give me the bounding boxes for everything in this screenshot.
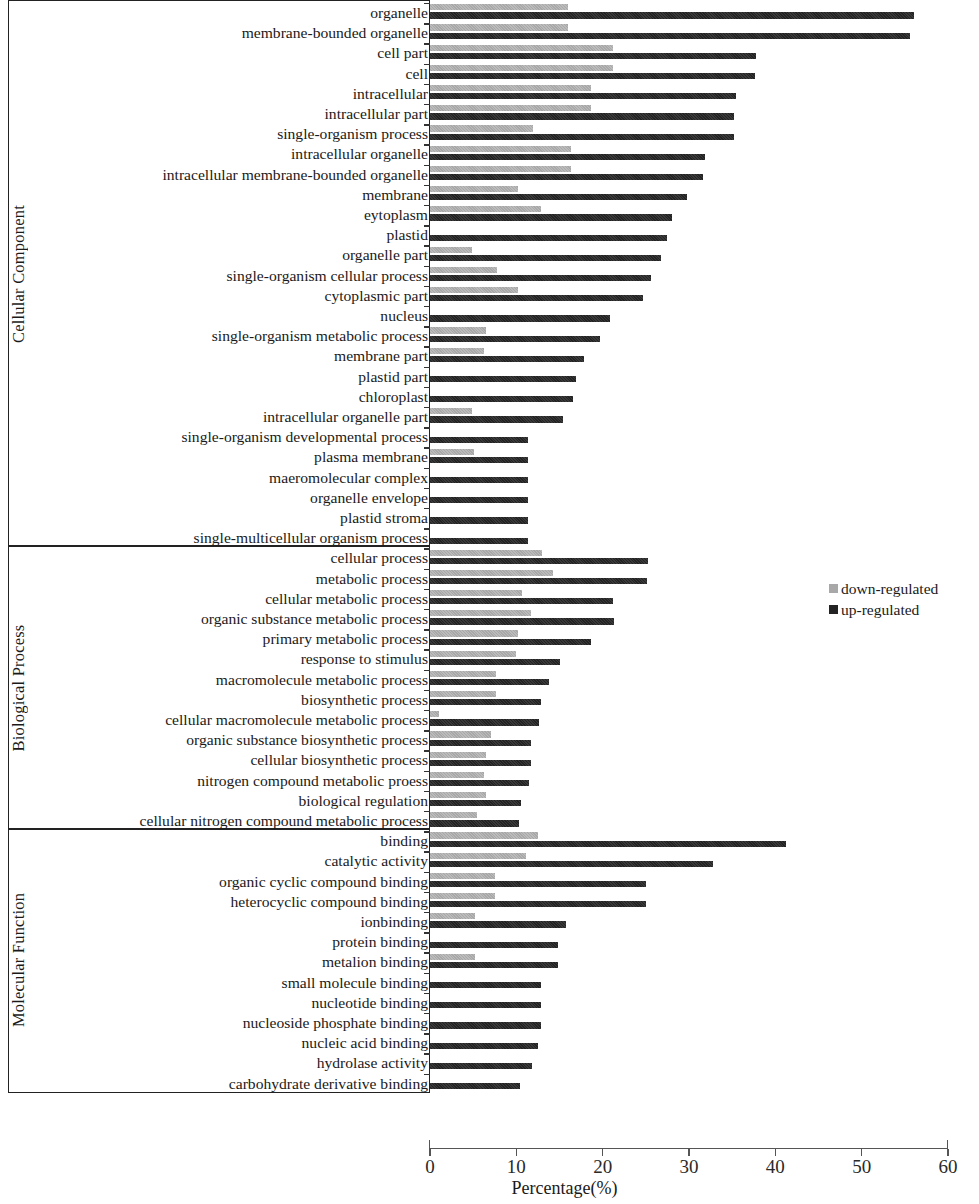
y-axis-tick — [424, 993, 430, 994]
y-axis-tick — [424, 306, 430, 307]
category-label: single-organism metabolic process — [212, 328, 428, 344]
chart-row: ionbinding — [0, 912, 979, 932]
x-tick — [861, 1149, 862, 1156]
chart-row: catalytic activity — [0, 851, 979, 871]
bar-down-regulated — [430, 792, 486, 798]
legend-item-up-regulated: up-regulated — [829, 599, 938, 620]
bar-up-regulated — [430, 780, 529, 786]
category-label: plasma membrane — [314, 450, 428, 466]
bar-down-regulated — [430, 45, 613, 51]
category-label: intracellular organelle — [291, 147, 428, 163]
bar-up-regulated — [430, 134, 734, 140]
chart-row: organelle — [0, 3, 979, 23]
chart-row: organic cyclic compound binding — [0, 872, 979, 892]
bar-down-regulated — [430, 731, 491, 737]
bar-up-regulated — [430, 376, 576, 382]
chart-row: biological regulation — [0, 791, 979, 811]
category-label: organic cyclic compound binding — [219, 874, 428, 890]
chart-row: chloroplast — [0, 387, 979, 407]
bar-up-regulated — [430, 820, 519, 826]
bar-up-regulated — [430, 942, 558, 948]
category-label: single-organism developmental process — [181, 429, 428, 445]
category-label: binding — [380, 833, 428, 849]
category-label: maeromolecular complex — [269, 470, 428, 486]
x-tick-label: 20 — [593, 1156, 612, 1178]
category-label: cellular macromolecule metabolic process — [165, 712, 428, 728]
chart-row: membrane part — [0, 346, 979, 366]
chart-row: organelle part — [0, 245, 979, 265]
bar-up-regulated — [430, 1063, 532, 1069]
bar-down-regulated — [430, 691, 496, 697]
category-label: nucleotide binding — [312, 995, 429, 1011]
x-tick-label: 0 — [425, 1156, 435, 1178]
bar-down-regulated — [430, 772, 484, 778]
category-label: cellular process — [331, 551, 428, 567]
bar-up-regulated — [430, 53, 756, 59]
chart-row: eytoplasm — [0, 205, 979, 225]
bar-up-regulated — [430, 457, 528, 463]
x-tick-label: 30 — [680, 1156, 699, 1178]
chart-row: membrane-bounded organelle — [0, 23, 979, 43]
chart-row: cellular nitrogen compound metabolic pro… — [0, 811, 979, 831]
bar-up-regulated — [430, 760, 531, 766]
bar-down-regulated — [430, 247, 472, 253]
bar-up-regulated — [430, 517, 528, 523]
bar-down-regulated — [430, 24, 568, 30]
x-tick — [947, 1149, 948, 1156]
bar-up-regulated — [430, 33, 910, 39]
legend-swatch-up-icon — [829, 605, 838, 614]
bar-up-regulated — [430, 982, 541, 988]
bar-up-regulated — [430, 598, 613, 604]
chart-row: heterocyclic compound binding — [0, 892, 979, 912]
bar-down-regulated — [430, 812, 477, 818]
legend-swatch-down-icon — [829, 584, 838, 593]
bar-down-regulated — [430, 853, 526, 859]
bar-up-regulated — [430, 901, 646, 907]
chart-row: intracellular organelle — [0, 144, 979, 164]
bar-up-regulated — [430, 740, 531, 746]
bar-up-regulated — [430, 538, 528, 544]
x-tick — [775, 1149, 776, 1156]
chart-row: carbohydrate derivative binding — [0, 1074, 979, 1094]
bar-down-regulated — [430, 954, 475, 960]
category-label: small molecule binding — [282, 975, 428, 991]
category-label: biosynthetic process — [301, 692, 428, 708]
bar-up-regulated — [430, 558, 648, 564]
chart-row: single-multicellular organism process — [0, 528, 979, 548]
category-label: organic substance biosynthetic process — [186, 732, 428, 748]
category-label: eytoplasm — [364, 207, 428, 223]
bar-up-regulated — [430, 618, 614, 624]
x-tick — [429, 1149, 430, 1156]
chart-row: protein binding — [0, 932, 979, 952]
bar-down-regulated — [430, 651, 516, 657]
chart-row: biosynthetic process — [0, 690, 979, 710]
legend: down-regulated up-regulated — [829, 578, 938, 620]
category-label: chloroplast — [359, 389, 428, 405]
x-axis-title: Percentage(%) — [0, 1178, 979, 1199]
chart-row: nucleoside phosphate binding — [0, 1013, 979, 1033]
legend-label-down: down-regulated — [841, 578, 938, 599]
category-label: single-organism process — [277, 126, 428, 142]
category-label: organelle — [370, 5, 428, 21]
bar-down-regulated — [430, 913, 475, 919]
bar-up-regulated — [430, 921, 566, 927]
category-label: catalytic activity — [325, 854, 428, 870]
category-label: intracellular organelle part — [263, 409, 428, 425]
go-enrichment-bar-chart: Cellular ComponentBiological ProcessMole… — [0, 0, 979, 1204]
chart-row: organic substance biosynthetic process — [0, 730, 979, 750]
bar-down-regulated — [430, 85, 591, 91]
chart-row: single-organism process — [0, 124, 979, 144]
chart-row: organelle envelope — [0, 488, 979, 508]
category-label: heterocyclic compound binding — [231, 894, 428, 910]
x-tick — [688, 1149, 689, 1156]
chart-row: maeromolecular complex — [0, 468, 979, 488]
chart-row: cellular biosynthetic process — [0, 750, 979, 770]
bar-up-regulated — [430, 800, 521, 806]
legend-item-down-regulated: down-regulated — [829, 578, 938, 599]
category-label: cell part — [377, 46, 428, 62]
category-label: protein binding — [332, 934, 428, 950]
bar-down-regulated — [430, 206, 541, 212]
x-tick-label: 10 — [507, 1156, 526, 1178]
bar-down-regulated — [430, 408, 472, 414]
bar-up-regulated — [430, 235, 667, 241]
